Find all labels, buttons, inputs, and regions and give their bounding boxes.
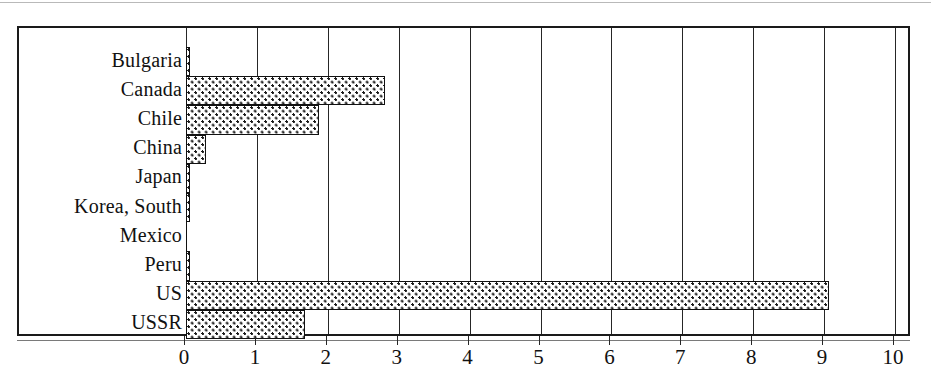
bar-ussr (186, 310, 305, 339)
x-tick-label-6: 6 (604, 344, 615, 370)
bar-mexico (186, 222, 187, 251)
plot-area (17, 26, 910, 336)
x-tick-label-7: 7 (675, 344, 686, 370)
scan-artifact-rule (0, 2, 931, 3)
x-axis-tick-labels: 012345678910 (0, 344, 931, 378)
bar-row (19, 135, 908, 164)
bar-chile (186, 105, 319, 134)
bar-row (19, 105, 908, 134)
x-tick-label-2: 2 (321, 344, 332, 370)
bar-peru (186, 251, 190, 280)
x-tick-label-1: 1 (250, 344, 261, 370)
bar-row (19, 76, 908, 105)
x-tick-label-8: 8 (746, 344, 757, 370)
bar-row (19, 164, 908, 193)
bar-row (19, 251, 908, 280)
x-tick-label-10: 10 (883, 344, 904, 370)
bar-japan (186, 164, 190, 193)
bar-row (19, 47, 908, 76)
bar-row (19, 193, 908, 222)
x-tick-label-3: 3 (391, 344, 402, 370)
bar-china (186, 135, 206, 164)
bar-canada (186, 76, 385, 105)
x-tick-label-5: 5 (533, 344, 544, 370)
bar-bulgaria (186, 47, 190, 76)
bar-row (19, 222, 908, 251)
bar-row (19, 281, 908, 310)
x-tick-label-9: 9 (817, 344, 828, 370)
bar-chart: BulgariaCanadaChileChinaJapanKorea, Sout… (0, 0, 931, 386)
bar-korea-south (186, 193, 190, 222)
bars-layer (19, 28, 908, 334)
bar-row (19, 310, 908, 339)
x-tick-label-0: 0 (179, 344, 190, 370)
x-tick-label-4: 4 (462, 344, 473, 370)
bar-us (186, 281, 829, 310)
